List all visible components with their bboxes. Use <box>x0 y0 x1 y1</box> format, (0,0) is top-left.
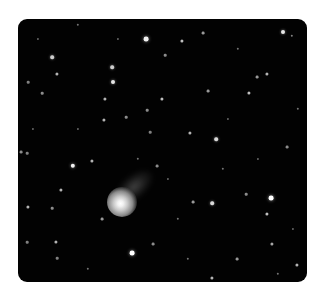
star <box>130 251 135 256</box>
star <box>192 201 195 204</box>
star <box>125 116 128 119</box>
star <box>50 55 54 59</box>
star <box>236 258 239 261</box>
star <box>292 228 294 230</box>
star <box>270 242 273 245</box>
star <box>111 80 115 84</box>
star <box>137 158 139 160</box>
star <box>149 131 152 134</box>
star <box>291 35 293 37</box>
star <box>256 76 259 79</box>
star <box>77 24 79 26</box>
star <box>41 92 44 95</box>
star <box>144 37 149 42</box>
star <box>180 39 183 42</box>
star <box>32 128 34 130</box>
star <box>295 263 298 266</box>
star <box>102 118 105 121</box>
comet-coma <box>107 187 137 217</box>
star <box>37 38 39 40</box>
star <box>103 97 106 100</box>
star <box>188 131 191 134</box>
star <box>26 152 29 155</box>
star <box>281 30 285 34</box>
star <box>152 243 155 246</box>
star <box>117 38 119 40</box>
star <box>77 128 79 130</box>
star <box>177 218 179 220</box>
star <box>26 241 29 244</box>
star <box>210 201 214 205</box>
star <box>265 72 268 75</box>
star <box>210 276 213 279</box>
star <box>247 91 250 94</box>
star <box>156 165 159 168</box>
star <box>51 207 54 210</box>
star <box>269 196 274 201</box>
star <box>71 164 75 168</box>
star <box>202 32 205 35</box>
star <box>55 72 58 75</box>
star <box>87 268 89 270</box>
star <box>164 54 167 57</box>
star <box>187 258 189 260</box>
star <box>257 158 259 160</box>
star <box>227 118 229 120</box>
star <box>56 257 59 260</box>
star <box>110 65 114 69</box>
star <box>20 151 23 154</box>
star <box>167 178 169 180</box>
star <box>237 48 239 50</box>
star <box>245 193 248 196</box>
star <box>286 146 289 149</box>
star <box>27 81 30 84</box>
star <box>214 137 218 141</box>
star <box>59 188 62 191</box>
star <box>160 97 163 100</box>
star <box>54 240 57 243</box>
star <box>26 205 29 208</box>
star <box>101 218 104 221</box>
page <box>0 0 322 296</box>
star <box>277 273 279 275</box>
star <box>265 212 268 215</box>
star <box>222 168 224 170</box>
star <box>90 159 93 162</box>
comet-photo <box>18 19 307 282</box>
star <box>207 90 210 93</box>
star <box>146 109 149 112</box>
star <box>297 108 299 110</box>
